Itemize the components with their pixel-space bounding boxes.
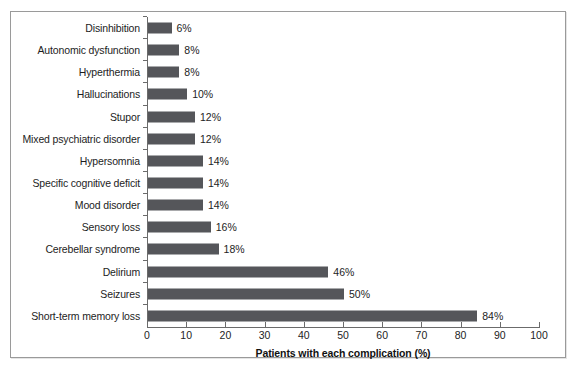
category-label: Autonomic dysfunction	[38, 45, 141, 56]
x-axis-tick-label: 80	[455, 330, 467, 341]
bar	[148, 244, 219, 255]
bar	[148, 89, 187, 100]
y-axis-tick	[143, 304, 147, 305]
x-axis-tick-label: 90	[494, 330, 506, 341]
bar-value-label: 8%	[184, 45, 199, 56]
bar	[148, 67, 179, 78]
category-label: Stupor	[110, 111, 140, 122]
bar-value-label: 14%	[208, 156, 229, 167]
bar-value-label: 16%	[216, 222, 237, 233]
bar-chart: Disinhibition6%Autonomic dysfunction8%Hy…	[11, 12, 567, 359]
category-label: Mood disorder	[75, 200, 140, 211]
x-axis-tick-label: 30	[259, 330, 271, 341]
category-label: Seizures	[100, 289, 140, 300]
category-label: Hypersomnia	[80, 156, 140, 167]
x-axis-tick	[225, 322, 226, 327]
bar	[148, 23, 172, 34]
bar-row: Hyperthermia8%	[147, 61, 539, 83]
y-axis-tick	[143, 149, 147, 150]
bar-row: Delirium46%	[147, 261, 539, 283]
bar-value-label: 14%	[208, 200, 229, 211]
bar-row: Disinhibition6%	[147, 17, 539, 39]
category-label: Hyperthermia	[79, 67, 140, 78]
x-axis-tick-label: 10	[180, 330, 192, 341]
y-axis-tick	[143, 282, 147, 283]
bar-row: Mood disorder14%	[147, 194, 539, 216]
x-axis-tick	[186, 322, 187, 327]
x-axis-tick-label: 50	[337, 330, 349, 341]
category-label: Hallucinations	[77, 89, 140, 100]
y-axis-tick	[143, 16, 147, 17]
category-label: Short-term memory loss	[31, 311, 140, 322]
bar-value-label: 14%	[208, 178, 229, 189]
x-axis-title: Patients with each complication (%)	[147, 347, 539, 359]
y-axis-tick	[143, 215, 147, 216]
category-label: Disinhibition	[85, 23, 140, 34]
category-label: Delirium	[103, 266, 140, 277]
bar-row: Cerebellar syndrome18%	[147, 238, 539, 260]
bar-value-label: 18%	[224, 244, 245, 255]
y-axis-tick	[143, 38, 147, 39]
bar-row: Sensory loss16%	[147, 216, 539, 238]
bar-row: Seizures50%	[147, 283, 539, 305]
category-label: Cerebellar syndrome	[45, 244, 140, 255]
plot-area: Disinhibition6%Autonomic dysfunction8%Hy…	[147, 17, 539, 327]
y-axis-tick	[143, 105, 147, 106]
y-axis-tick	[143, 171, 147, 172]
x-axis-tick-label: 40	[298, 330, 310, 341]
category-label: Specific cognitive deficit	[32, 178, 140, 189]
bar-value-label: 12%	[200, 111, 221, 122]
x-axis-tick	[304, 322, 305, 327]
bar	[148, 288, 344, 299]
x-axis-tick	[343, 322, 344, 327]
bar-row: Hallucinations10%	[147, 83, 539, 105]
bar	[148, 310, 477, 321]
bar-value-label: 12%	[200, 134, 221, 145]
x-axis-tick-label: 0	[144, 330, 150, 341]
bar	[148, 45, 179, 56]
y-axis-tick	[143, 60, 147, 61]
y-axis-tick	[143, 127, 147, 128]
category-label: Sensory loss	[82, 222, 140, 233]
x-axis-tick	[500, 322, 501, 327]
bar-value-label: 84%	[482, 311, 503, 322]
x-axis-tick-label: 100	[530, 330, 548, 341]
figure-frame: Disinhibition6%Autonomic dysfunction8%Hy…	[10, 11, 566, 358]
x-axis-tick-label: 60	[376, 330, 388, 341]
x-axis-tick	[147, 322, 148, 327]
bar	[148, 155, 203, 166]
bar-value-label: 46%	[333, 266, 354, 277]
bar-value-label: 8%	[184, 67, 199, 78]
bar-row: Stupor12%	[147, 106, 539, 128]
bar-row: Specific cognitive deficit14%	[147, 172, 539, 194]
x-axis-line	[147, 327, 540, 328]
bar	[148, 200, 203, 211]
bar-row: Hypersomnia14%	[147, 150, 539, 172]
y-axis-tick	[143, 193, 147, 194]
bar	[148, 133, 195, 144]
bar	[148, 266, 328, 277]
x-axis-tick-label: 20	[220, 330, 232, 341]
bar-value-label: 6%	[177, 23, 192, 34]
x-axis-tick	[265, 322, 266, 327]
x-axis-tick	[382, 322, 383, 327]
bar-value-label: 50%	[349, 289, 370, 300]
y-axis-tick	[143, 82, 147, 83]
category-label: Mixed psychiatric disorder	[23, 134, 140, 145]
y-axis-tick	[143, 237, 147, 238]
bar	[148, 111, 195, 122]
x-axis-tick-label: 70	[416, 330, 428, 341]
bar	[148, 178, 203, 189]
x-axis-tick	[539, 322, 540, 327]
bar-row: Autonomic dysfunction8%	[147, 39, 539, 61]
x-axis-tick	[461, 322, 462, 327]
bar-row: Mixed psychiatric disorder12%	[147, 128, 539, 150]
x-axis-tick	[421, 322, 422, 327]
bar	[148, 222, 211, 233]
y-axis-tick	[143, 260, 147, 261]
bar-value-label: 10%	[192, 89, 213, 100]
